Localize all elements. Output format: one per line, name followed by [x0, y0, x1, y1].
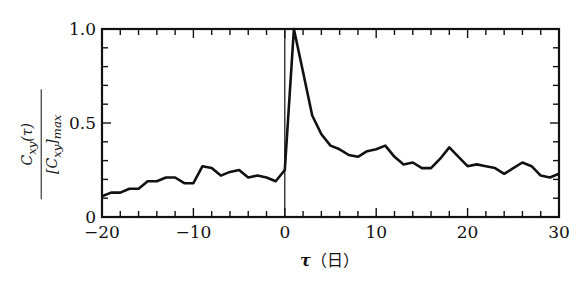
x-axis-label: τ（日）: [300, 247, 359, 271]
svg-text:−10: −10: [175, 222, 211, 242]
svg-text:10: 10: [365, 222, 387, 242]
axis-ticks: [102, 29, 559, 217]
svg-text:20: 20: [457, 222, 479, 242]
svg-text:0: 0: [279, 222, 290, 242]
y-label-denominator: [Cxy]max: [42, 89, 64, 199]
svg-text:1.0: 1.0: [69, 19, 96, 39]
svg-text:0: 0: [85, 207, 96, 227]
line-chart: −20−10010203000.51.0: [0, 0, 576, 282]
y-axis-label: Cxy(τ) [Cxy]max: [8, 92, 78, 192]
y-label-numerator: Cxy(τ): [19, 89, 42, 199]
data-series-line: [102, 29, 559, 196]
svg-text:30: 30: [548, 222, 570, 242]
plot-frame: [102, 29, 559, 217]
